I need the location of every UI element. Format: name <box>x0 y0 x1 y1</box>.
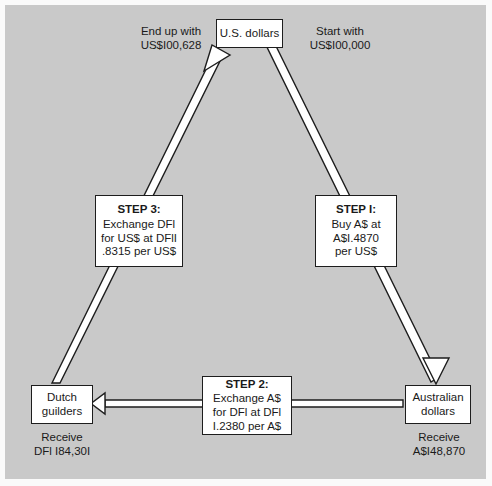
start-with-caption: Start with US$I00,000 <box>291 25 389 53</box>
usd-node[interactable]: U.S. dollars <box>216 19 283 48</box>
step-1-line1: Buy A$ at <box>331 218 380 232</box>
nlg-node-label-line2: guilders <box>42 405 82 419</box>
receive-guilders-caption: Receive DFl I84,30I <box>19 431 105 459</box>
aud-node-label-line1: Australian <box>412 391 463 405</box>
usd-node-label: U.S. dollars <box>220 27 279 41</box>
receive-aud-label: Receive <box>395 431 483 445</box>
step-3-line1: Exchange DFl <box>103 218 175 232</box>
nlg-node[interactable]: Dutch guilders <box>31 385 93 424</box>
step-3-line3: .8315 per US$ <box>102 245 176 259</box>
step-2-heading: STEP 2: <box>225 378 268 392</box>
step-1-line2: A$I.4870 <box>333 232 379 246</box>
step-1-heading: STEP I: <box>336 203 376 217</box>
receive-aud-caption: Receive A$I48,870 <box>395 431 483 459</box>
end-up-with-amount: US$I00,628 <box>123 39 219 53</box>
start-with-amount: US$I00,000 <box>291 39 389 53</box>
receive-guilders-label: Receive <box>19 431 105 445</box>
end-up-with-caption: End up with US$I00,628 <box>123 25 219 53</box>
step-3-heading: STEP 3: <box>117 203 160 217</box>
aud-node-label-line2: dollars <box>421 405 455 419</box>
step-2-line1: Exchange A$ <box>213 392 281 406</box>
step-2-line3: I.2380 per A$ <box>213 420 281 434</box>
step-2-line2: for DFl at DFl <box>213 406 281 420</box>
receive-guilders-amount: DFl I84,30I <box>19 445 105 459</box>
step-3-box[interactable]: STEP 3: Exchange DFl for US$ at DFlI .83… <box>95 195 183 267</box>
step-1-box[interactable]: STEP I: Buy A$ at A$I.4870 per US$ <box>315 195 397 267</box>
receive-aud-amount: A$I48,870 <box>395 445 483 459</box>
start-with-label: Start with <box>291 25 389 39</box>
step-1-line3: per US$ <box>335 245 377 259</box>
step-3-line2: for US$ at DFlI <box>101 232 177 246</box>
diagram-page: U.S. dollars Australian dollars Dutch gu… <box>0 0 492 486</box>
aud-node[interactable]: Australian dollars <box>405 385 471 424</box>
nlg-node-label-line1: Dutch <box>47 391 77 405</box>
step-2-box[interactable]: STEP 2: Exchange A$ for DFl at DFl I.238… <box>202 376 292 435</box>
end-up-with-label: End up with <box>123 25 219 39</box>
diagram-canvas: U.S. dollars Australian dollars Dutch gu… <box>5 5 486 479</box>
